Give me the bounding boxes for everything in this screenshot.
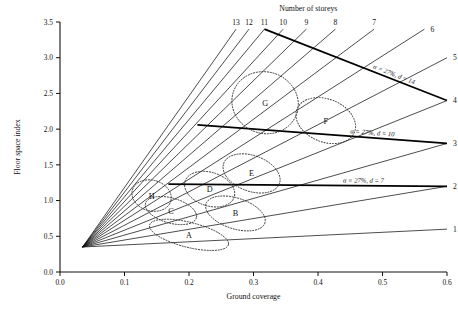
ray-label-12: 12 bbox=[245, 18, 253, 27]
cluster-label-D: D bbox=[207, 185, 213, 194]
cluster-label-C: C bbox=[168, 207, 174, 216]
x-axis-title: Ground coverage bbox=[227, 292, 281, 301]
fan-header-label: Number of storeys bbox=[279, 4, 337, 13]
cluster-label-G: G bbox=[262, 99, 268, 108]
y-tick-label: 0.5 bbox=[44, 232, 54, 241]
ray-label-4: 4 bbox=[453, 96, 457, 105]
ray-label-6: 6 bbox=[430, 25, 434, 34]
storey-ray-8 bbox=[83, 29, 336, 247]
storey-ray-5 bbox=[83, 58, 447, 247]
storey-rays-group bbox=[83, 29, 447, 247]
depth-line-label-d7: α = 27%, d = 7 bbox=[343, 176, 385, 183]
ray-label-5: 5 bbox=[453, 53, 457, 62]
cluster-label-H: H bbox=[149, 192, 155, 201]
x-tick-label: 0.2 bbox=[184, 278, 194, 287]
text-labels-group: Ground coverageFloor space indexNumber o… bbox=[13, 4, 457, 301]
storey-ray-9 bbox=[83, 29, 307, 247]
ray-label-13: 13 bbox=[232, 18, 240, 27]
x-tick-label: 0.1 bbox=[120, 278, 130, 287]
depth-line-d10 bbox=[197, 125, 447, 144]
ray-label-2: 2 bbox=[453, 182, 457, 191]
y-tick-label: 2.0 bbox=[44, 125, 54, 134]
depth-line-d14 bbox=[264, 29, 447, 100]
storey-ray-4 bbox=[83, 101, 447, 247]
y-axis-title: Floor space index bbox=[13, 119, 22, 175]
storey-ray-13 bbox=[83, 29, 237, 247]
y-tick-label: 2.5 bbox=[44, 89, 54, 98]
axes-group: 0.00.51.01.52.02.53.03.50.00.10.20.30.40… bbox=[44, 18, 452, 287]
ray-label-11: 11 bbox=[261, 18, 269, 27]
x-tick-label: 0.0 bbox=[55, 278, 65, 287]
ray-label-3: 3 bbox=[453, 139, 457, 148]
ray-label-10: 10 bbox=[279, 18, 287, 27]
ray-label-7: 7 bbox=[372, 18, 376, 27]
y-tick-label: 1.5 bbox=[44, 161, 54, 170]
ray-label-1: 1 bbox=[453, 225, 457, 234]
storey-ray-7 bbox=[83, 29, 375, 247]
x-tick-label: 0.3 bbox=[249, 278, 259, 287]
ray-label-9: 9 bbox=[304, 18, 308, 27]
y-tick-label: 3.5 bbox=[44, 18, 54, 27]
x-tick-label: 0.5 bbox=[378, 278, 388, 287]
y-tick-label: 0.0 bbox=[44, 268, 54, 277]
chart-svg: 0.00.51.01.52.02.53.03.50.00.10.20.30.40… bbox=[0, 0, 458, 313]
cluster-label-A: A bbox=[186, 231, 192, 240]
ray-label-8: 8 bbox=[334, 18, 338, 27]
storey-ray-12 bbox=[83, 29, 249, 247]
y-tick-label: 1.0 bbox=[44, 196, 54, 205]
cluster-label-B: B bbox=[233, 209, 239, 218]
chart-figure: 0.00.51.01.52.02.53.03.50.00.10.20.30.40… bbox=[0, 0, 458, 313]
cluster-label-E: E bbox=[249, 169, 254, 178]
x-tick-label: 0.4 bbox=[313, 278, 323, 287]
cluster-label-F: F bbox=[323, 117, 328, 126]
x-tick-label: 0.6 bbox=[442, 278, 452, 287]
y-tick-label: 3.0 bbox=[44, 53, 54, 62]
